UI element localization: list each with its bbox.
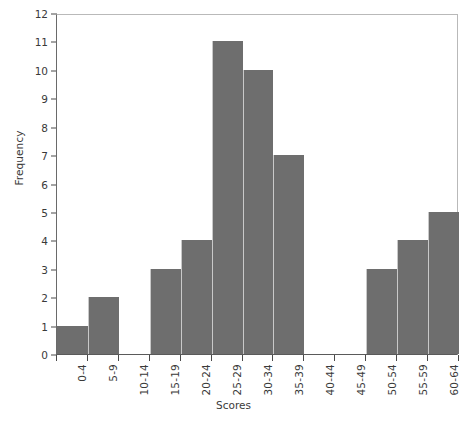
x-tick-label: 50-54 — [386, 364, 398, 396]
x-axis-ticks: 0-45-910-1415-1920-2425-2930-3435-3940-4… — [0, 0, 467, 421]
x-axis-title: Scores — [0, 399, 467, 411]
x-tick-mark — [458, 355, 459, 361]
x-tick-mark — [396, 355, 397, 361]
x-tick-label: 20-24 — [200, 364, 212, 396]
x-tick-mark — [56, 355, 57, 361]
x-tick-mark — [365, 355, 366, 361]
x-tick-label: 5-9 — [107, 364, 119, 382]
histogram-chart: Frequency 0123456789101112 0-45-910-1415… — [0, 0, 467, 421]
x-tick-mark — [242, 355, 243, 361]
x-tick-label: 0-4 — [76, 364, 88, 382]
x-tick-label: 55-59 — [417, 364, 429, 396]
x-tick-label: 30-34 — [262, 364, 274, 396]
x-tick-mark — [87, 355, 88, 361]
x-tick-label: 35-39 — [293, 364, 305, 396]
x-tick-label: 40-44 — [324, 364, 336, 396]
x-tick-label: 60-64 — [448, 364, 460, 396]
x-tick-label: 15-19 — [169, 364, 181, 396]
x-tick-mark — [334, 355, 335, 361]
x-tick-label: 25-29 — [231, 364, 243, 396]
x-tick-label: 45-49 — [355, 364, 367, 396]
x-tick-mark — [211, 355, 212, 361]
x-tick-mark — [272, 355, 273, 361]
x-tick-mark — [427, 355, 428, 361]
x-tick-mark — [303, 355, 304, 361]
x-tick-mark — [149, 355, 150, 361]
x-tick-label: 10-14 — [138, 364, 150, 396]
x-tick-mark — [118, 355, 119, 361]
x-tick-mark — [180, 355, 181, 361]
